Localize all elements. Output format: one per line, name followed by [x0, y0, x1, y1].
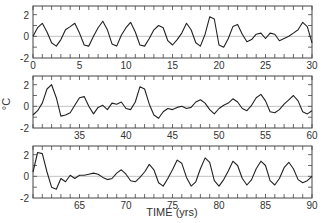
x-axis-label: TIME (yrs) [146, 206, 197, 218]
x-tick-label: 80 [213, 200, 225, 211]
x-tick-label: 55 [260, 130, 272, 141]
panel-frame [33, 6, 312, 58]
x-tick-label: 15 [167, 60, 179, 71]
panel-1: -202051015202530 [20, 6, 318, 71]
x-tick-label: 25 [260, 60, 272, 71]
x-tick-label: 45 [167, 130, 179, 141]
x-tick-label: 70 [120, 200, 132, 211]
x-tick-label: 40 [120, 130, 132, 141]
chart-panels: -202051015202530-202354045505560-2026570… [20, 6, 318, 211]
y-tick-label: 0 [23, 31, 29, 42]
x-tick-label: 50 [213, 130, 225, 141]
x-tick-label: 0 [30, 60, 36, 71]
x-tick-label: 5 [77, 60, 83, 71]
panel-frame [33, 146, 312, 198]
y-tick-label: 2 [23, 80, 29, 91]
panel-3: -202657075808590 [20, 146, 318, 211]
panel-frame [33, 76, 312, 128]
x-tick-label: 10 [120, 60, 132, 71]
temperature-series-line [33, 153, 312, 190]
temperature-series-line [33, 17, 312, 47]
x-tick-label: 60 [306, 130, 318, 141]
temperature-series-line [33, 85, 312, 119]
y-axis-label: °C [0, 98, 12, 110]
x-tick-label: 20 [213, 60, 225, 71]
y-tick-label: -2 [20, 53, 29, 64]
chart-figure: -202051015202530-202354045505560-2026570… [0, 0, 324, 223]
y-tick-label: 0 [23, 101, 29, 112]
y-tick-label: 0 [23, 171, 29, 182]
y-tick-label: 2 [23, 150, 29, 161]
x-tick-label: 65 [74, 200, 86, 211]
y-tick-label: -2 [20, 193, 29, 204]
x-tick-label: 90 [306, 200, 318, 211]
y-tick-label: 2 [23, 10, 29, 21]
y-tick-label: -2 [20, 123, 29, 134]
panel-2: -202354045505560 [20, 76, 318, 141]
x-tick-label: 35 [74, 130, 86, 141]
x-tick-label: 85 [260, 200, 272, 211]
x-tick-label: 30 [306, 60, 318, 71]
